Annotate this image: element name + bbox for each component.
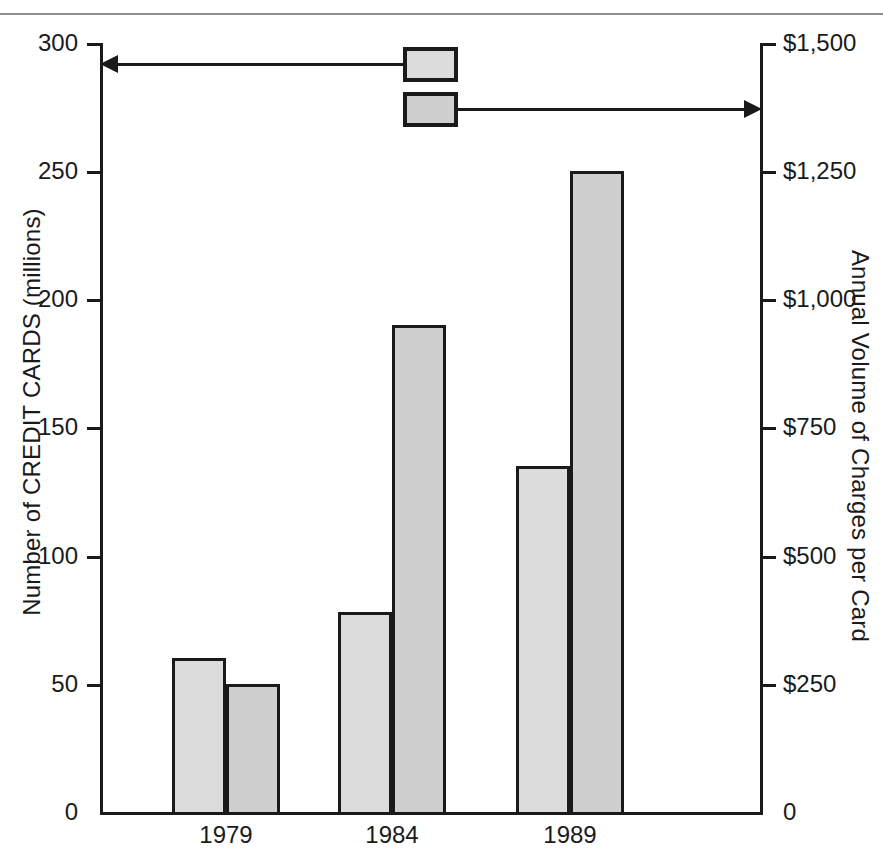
left-axis-tick-250 [87,171,100,174]
right-axis-tick-1000 [763,299,776,302]
x-axis-label-1989: 1989 [510,822,630,848]
right-axis-tick-250 [763,684,776,687]
right-axis-tick-750 [763,427,776,430]
left-axis-label-50: 50 [51,672,78,696]
right-axis-label-500: $500 [783,544,836,568]
left-axis-tick-300 [87,43,100,46]
right-axis-label-250: $250 [783,672,836,696]
left-axis-tick-150 [87,427,100,430]
legend-leader-line-to-right-axis [456,108,756,111]
right-axis-label-750: $750 [783,415,836,439]
left-axis-tick-50 [87,684,100,687]
right-axis-tick-1500 [763,43,776,46]
cut-off-caption-text [215,0,635,9]
left-axis-tick-200 [87,299,100,302]
bar-1989-cards [516,466,570,815]
header-rule [0,13,883,15]
right-axis-title: Annual Volume of Charges per Card [846,146,874,746]
legend-swatch-credit-cards [403,47,458,82]
bar-1979-cards [172,658,226,815]
legend-swatch-charges-per-card [403,92,458,127]
arrow-left-icon [100,55,118,73]
left-axis-label-300: 300 [38,31,78,55]
left-axis-tick-100 [87,556,100,559]
left-axis-line [100,43,103,815]
bar-1984-charges [392,325,446,815]
left-axis-label-0: 0 [65,800,78,824]
bar-1984-cards [338,612,392,815]
bar-chart-figure: 300 250 200 150 100 50 0 $1,500 $1,250 $… [0,0,883,858]
right-axis-label-1500: $1,500 [783,31,856,55]
x-axis-label-1984: 1984 [332,822,452,848]
right-axis-tick-500 [763,556,776,559]
right-axis-tick-1250 [763,171,776,174]
bar-1979-charges [226,684,280,815]
arrow-right-icon [744,100,762,118]
left-axis-title: Number of CREDIT CARDS (millions) [18,112,46,712]
bar-1989-charges [570,171,624,815]
x-axis-label-1979: 1979 [166,822,286,848]
legend-leader-line-to-left-axis [106,63,404,66]
right-axis-label-0: 0 [783,800,796,824]
